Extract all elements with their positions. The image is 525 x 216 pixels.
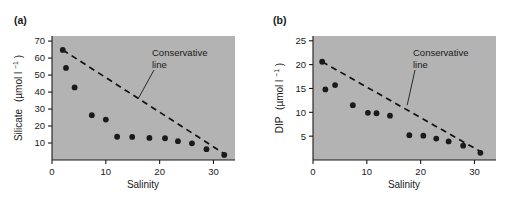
data-point xyxy=(89,112,95,118)
panel-a-x-ticks: 0102030 xyxy=(49,160,218,177)
x-tick-label: 0 xyxy=(49,166,54,177)
y-tick-label: 60 xyxy=(34,52,45,63)
data-point xyxy=(477,150,483,156)
panel-b-x-axis-title: Salinity xyxy=(388,179,420,190)
x-tick-label: 10 xyxy=(362,166,373,177)
y-tick-label: 20 xyxy=(34,120,45,131)
x-tick-label: 20 xyxy=(415,166,426,177)
panel-b-y-ticks: 510152025 xyxy=(295,35,313,141)
data-point xyxy=(129,134,135,140)
panel-b-annotation-line2: line xyxy=(413,59,428,70)
panel-a-y-axis-unit-close: ) xyxy=(13,55,24,58)
data-point xyxy=(103,117,109,123)
data-point xyxy=(420,133,426,139)
figure-container: (a) 10203040506070 0102030 Conservative … xyxy=(0,0,525,216)
y-tick-label: 15 xyxy=(295,83,306,94)
data-point xyxy=(63,65,69,71)
y-tick-label: 40 xyxy=(34,86,45,97)
data-point xyxy=(460,143,466,149)
x-tick-label: 30 xyxy=(208,166,219,177)
data-point xyxy=(114,134,120,140)
panel-a-y-ticks: 10203040506070 xyxy=(34,35,52,148)
y-tick-label: 10 xyxy=(34,137,45,148)
data-point xyxy=(322,87,328,93)
panel-b-annotation-line1: Conservative xyxy=(413,47,468,58)
panel-a-y-axis-unit-base: (µmol l xyxy=(13,72,24,102)
panel-a-plot-background xyxy=(52,36,235,160)
data-point xyxy=(365,110,371,116)
data-point xyxy=(332,82,338,88)
data-point xyxy=(189,140,195,146)
panel-a-annotation-line2: line xyxy=(152,59,167,70)
panel-b: (b) 510152025 0102030 Conservative line … xyxy=(263,0,525,216)
data-point xyxy=(387,113,393,119)
y-tick-label: 25 xyxy=(295,35,306,46)
data-point xyxy=(60,47,66,53)
panel-a-y-axis-title-main: Silicate xyxy=(13,108,24,141)
panel-b-y-axis-title: DIP (µmol l −1 ) xyxy=(270,63,285,133)
y-tick-label: 50 xyxy=(34,69,45,80)
y-tick-label: 30 xyxy=(34,103,45,114)
panel-b-y-axis-title-main: DIP xyxy=(274,116,285,133)
panel-b-y-axis-unit-base: (µmol l xyxy=(274,80,285,110)
x-tick-label: 30 xyxy=(469,166,480,177)
panel-a-plot: 10203040506070 0102030 Conservative line… xyxy=(0,0,262,216)
panel-a-annotation-line1: Conservative xyxy=(152,47,207,58)
panel-a: (a) 10203040506070 0102030 Conservative … xyxy=(0,0,262,216)
data-point xyxy=(204,146,210,152)
y-tick-label: 10 xyxy=(295,107,306,118)
data-point xyxy=(221,152,227,158)
panel-b-y-axis-unit-exponent: −1 xyxy=(273,69,280,77)
y-tick-label: 70 xyxy=(34,35,45,46)
panel-a-x-axis-title: Salinity xyxy=(127,179,159,190)
y-tick-label: 5 xyxy=(301,131,306,142)
panel-b-plot-background xyxy=(313,36,496,160)
y-tick-label: 20 xyxy=(295,59,306,70)
panel-a-y-axis-unit-exponent: −1 xyxy=(12,61,19,69)
data-point xyxy=(147,135,153,141)
panel-a-y-axis-title: Silicate (µmol l −1 ) xyxy=(9,55,24,141)
data-point xyxy=(72,85,78,91)
data-point xyxy=(433,136,439,142)
data-point xyxy=(374,110,380,116)
panel-b-x-ticks: 0102030 xyxy=(310,160,479,177)
panel-b-y-axis-unit-close: ) xyxy=(274,63,285,66)
x-tick-label: 10 xyxy=(101,166,112,177)
data-point xyxy=(406,132,412,138)
data-point xyxy=(175,138,181,144)
data-point xyxy=(162,135,168,141)
x-tick-label: 0 xyxy=(310,166,315,177)
data-point xyxy=(319,59,325,65)
data-point xyxy=(446,139,452,145)
data-point xyxy=(350,102,356,108)
panel-b-plot: 510152025 0102030 Conservative line Sali… xyxy=(263,0,525,216)
x-tick-label: 20 xyxy=(154,166,165,177)
